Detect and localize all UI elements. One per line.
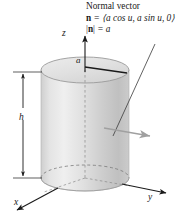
magnitude-rhs: = a	[95, 24, 111, 34]
cylinder-normal-vector-figure: Normal vector n = ⟨a cos u, a sin u, 0⟩ …	[0, 0, 186, 220]
annotation-vector-definition: n = ⟨a cos u, a sin u, 0⟩	[86, 13, 175, 25]
axis-y-arrow	[122, 184, 166, 193]
axis-label-z: z	[62, 28, 66, 38]
annotation-magnitude: |n| = a	[86, 24, 175, 36]
vector-definition-rhs: = ⟨a cos u, a sin u, 0⟩	[91, 13, 175, 23]
normal-vector-annotation: Normal vector n = ⟨a cos u, a sin u, 0⟩ …	[86, 1, 175, 36]
height-dimension	[13, 72, 42, 178]
radius-label: a	[76, 55, 81, 65]
axis-label-y: y	[148, 192, 152, 202]
annotation-title: Normal vector	[86, 1, 175, 13]
axis-x-arrow	[17, 188, 58, 210]
height-label: h	[19, 112, 24, 122]
axis-label-x: x	[14, 197, 18, 207]
